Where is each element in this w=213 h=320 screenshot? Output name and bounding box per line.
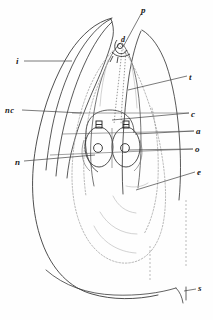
label-a: a (196, 127, 201, 136)
figure-illustration (0, 0, 213, 320)
label-n: n (15, 158, 20, 167)
figure-background (0, 0, 213, 320)
label-s: s (198, 284, 202, 293)
label-d: d (121, 36, 125, 44)
figure-root: i nc n p d t c a o e s (0, 0, 213, 320)
label-i: i (16, 57, 19, 66)
label-o: o (195, 145, 200, 154)
label-c: c (191, 110, 195, 119)
label-t: t (189, 73, 192, 82)
label-nc: nc (5, 106, 15, 115)
label-p: p (141, 6, 146, 15)
label-e: e (197, 168, 201, 177)
